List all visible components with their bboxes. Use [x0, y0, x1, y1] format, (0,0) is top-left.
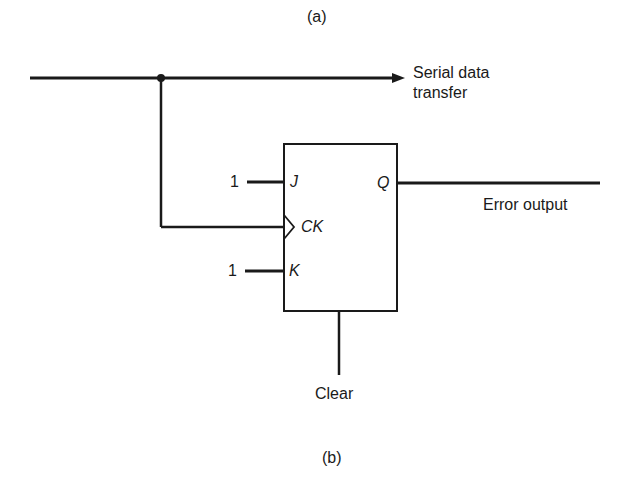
pin-k-label: K	[289, 262, 300, 280]
serial-data-label: Serial data	[413, 64, 490, 82]
pin-q-label: Q	[377, 174, 389, 192]
error-output-label: Error output	[483, 196, 567, 214]
arrow-head-icon	[392, 73, 405, 83]
clear-label: Clear	[315, 385, 353, 403]
clock-triangle-icon	[284, 215, 294, 239]
k-input-value: 1	[228, 262, 237, 280]
pin-j-label: J	[290, 173, 298, 191]
transfer-label: transfer	[413, 84, 467, 102]
caption-bottom: (b)	[322, 449, 342, 467]
pin-ck-label: CK	[301, 218, 323, 236]
caption-top: (a)	[307, 8, 327, 26]
j-input-value: 1	[230, 173, 239, 191]
circuit-diagram	[0, 0, 633, 492]
